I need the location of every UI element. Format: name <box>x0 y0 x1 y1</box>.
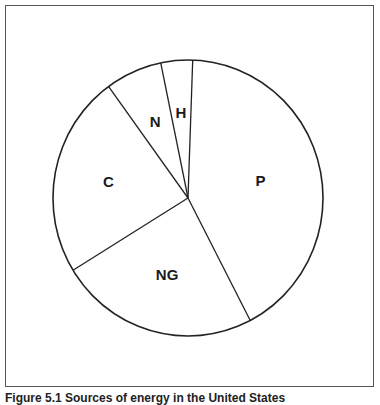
slice-label-c: C <box>103 173 114 190</box>
figure-caption: Figure 5.1 Sources of energy in the Unit… <box>5 391 285 405</box>
slice-label-h: H <box>176 104 187 121</box>
slice-label-ng: NG <box>156 266 179 283</box>
slice-label-n: N <box>150 113 161 130</box>
slice-label-p: P <box>255 172 265 189</box>
pie-slices <box>53 60 323 336</box>
